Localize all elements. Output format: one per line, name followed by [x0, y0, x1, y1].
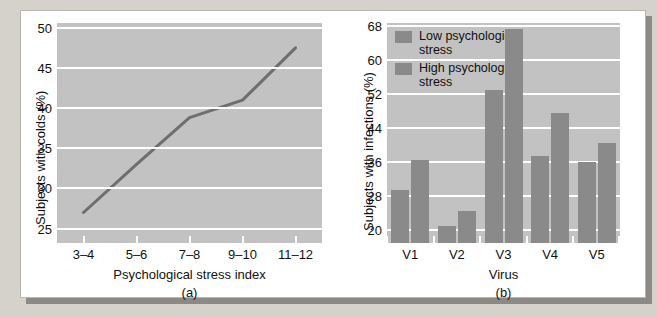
gridline [387, 127, 620, 129]
legend-label: High psychological stress [419, 61, 549, 89]
legend-swatch [395, 63, 412, 75]
x-axis-title-b: Virus [387, 267, 620, 282]
plot-area-b: Low psychological stressHigh psychologic… [387, 23, 620, 243]
legend-swatch [395, 31, 412, 43]
figure-root: 504540353025 3–45–67–89–1011–12 Psycholo… [0, 0, 657, 317]
bar [578, 162, 596, 243]
gridline [57, 27, 322, 29]
y-tick-label: 45 [38, 60, 52, 75]
x-tick-mark [526, 236, 528, 243]
gridline [57, 228, 322, 230]
x-axis-title-a: Psychological stress index [57, 267, 322, 282]
y-tick-label: 50 [38, 20, 52, 35]
x-tick-mark [242, 236, 244, 243]
bar [551, 113, 569, 243]
x-tick-mark [618, 236, 620, 243]
gridline [387, 25, 620, 27]
x-axis-ticks-a: 3–45–67–89–1011–12 [57, 247, 322, 265]
x-tick-label: 9–10 [228, 247, 257, 262]
line-series-svg [57, 23, 322, 243]
gridline [57, 187, 322, 189]
x-tick-mark [433, 236, 435, 243]
x-tick-label: V1 [402, 247, 418, 262]
legend-item: Low psychological stress [395, 29, 549, 57]
plot-area-a [57, 23, 322, 243]
x-tick-label: 3–4 [73, 247, 95, 262]
bar [531, 156, 549, 243]
gridline [57, 147, 322, 149]
x-tick-label: V3 [496, 247, 512, 262]
bar [485, 90, 503, 243]
y-tick-label: 68 [368, 19, 382, 34]
x-tick-label: 5–6 [126, 247, 148, 262]
x-tick-mark [136, 236, 138, 243]
legend-item: High psychological stress [395, 61, 549, 89]
bar [411, 160, 429, 243]
bar [438, 226, 456, 243]
x-tick-label: 7–8 [179, 247, 201, 262]
bar [458, 211, 476, 243]
panel-letter-b: (b) [387, 285, 620, 300]
x-tick-label: V2 [449, 247, 465, 262]
y-tick-label: 60 [368, 53, 382, 68]
panel-b: 68605244362820 Low psychological stressH… [341, 11, 647, 299]
x-tick-label: V5 [589, 247, 605, 262]
bar [598, 143, 616, 243]
x-tick-mark [83, 236, 85, 243]
bar [505, 29, 523, 243]
x-tick-mark [295, 236, 297, 243]
panel-letter-a: (a) [57, 285, 322, 300]
legend-label: Low psychological stress [419, 29, 549, 57]
bar [391, 190, 409, 243]
x-axis-ticks-b: V1V2V3V4V5 [387, 247, 620, 265]
x-tick-mark [572, 236, 574, 243]
gridline [57, 107, 322, 109]
y-axis-title-b: Subjects with infections (%) [361, 72, 376, 231]
x-tick-mark [479, 236, 481, 243]
x-tick-mark [189, 236, 191, 243]
figure-card: 504540353025 3–45–67–89–1011–12 Psycholo… [20, 10, 646, 298]
x-tick-label: V4 [542, 247, 558, 262]
gridline [387, 59, 620, 61]
gridline [57, 67, 322, 69]
y-axis-title-a: Subjects with colds (%) [33, 91, 48, 225]
panel-a: 504540353025 3–45–67–89–1011–12 Psycholo… [21, 11, 341, 299]
x-tick-label: 11–12 [278, 247, 313, 262]
gridline [387, 93, 620, 95]
x-tick-mark [387, 236, 388, 243]
